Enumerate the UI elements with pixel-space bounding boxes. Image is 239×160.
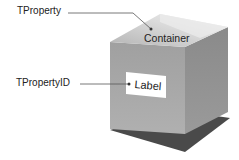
tpropertyid-callout-label: TPropertyID <box>16 77 70 88</box>
container-label: Container <box>144 32 190 44</box>
tproperty-callout-label: TProperty <box>17 5 61 16</box>
tproperty-callout-dot <box>150 28 153 31</box>
tpropertyid-callout-dot <box>128 83 131 86</box>
inner-label: Label <box>134 78 162 92</box>
